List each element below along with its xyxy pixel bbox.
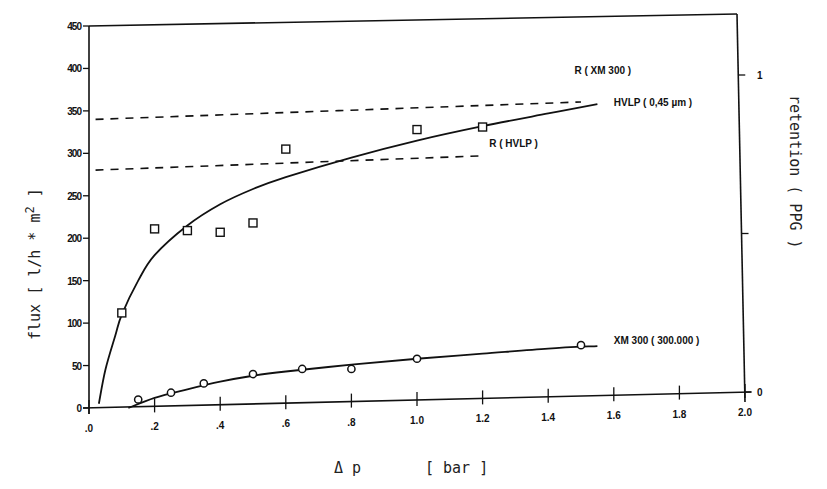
square-marker bbox=[183, 227, 191, 235]
x-tick-label: 1.8 bbox=[672, 409, 686, 420]
x-tick-label: 1.4 bbox=[541, 412, 555, 423]
square-marker bbox=[282, 145, 290, 153]
x-tick-label: 1.6 bbox=[607, 410, 621, 421]
y-tick-label: 350 bbox=[67, 106, 82, 117]
square-marker bbox=[479, 123, 487, 131]
x-tick-label: 2.0 bbox=[738, 407, 752, 418]
series-annotations: R ( XM 300 )HVLP ( 0,45 µm )R ( HVLP )XM… bbox=[489, 65, 699, 346]
x-tick-label: .8 bbox=[347, 417, 356, 428]
retention-line-r-hvlp- bbox=[96, 156, 483, 170]
top-border-line bbox=[89, 14, 737, 26]
x-axis: .0.2.4.6.81.01.21.41.61.82.0 bbox=[85, 384, 753, 434]
y-axis-title-end: ] bbox=[26, 188, 44, 206]
square-marker bbox=[151, 225, 159, 233]
circle-marker bbox=[299, 365, 306, 372]
retention-line-r-xm-300- bbox=[96, 102, 581, 119]
plot-frame bbox=[83, 14, 751, 414]
x-axis-title-symbol: Δ p bbox=[334, 459, 361, 477]
square-marker bbox=[249, 219, 257, 227]
y2-axis-title: retention ( PPG ) bbox=[786, 95, 804, 249]
series-label: R ( HVLP ) bbox=[489, 138, 538, 149]
x-tick-label: .6 bbox=[282, 418, 291, 429]
circle-marker bbox=[348, 365, 355, 372]
x-axis-title-unit: [ bar ] bbox=[425, 459, 488, 477]
y-tick-label: 300 bbox=[67, 148, 82, 159]
x-tick-label: .0 bbox=[85, 423, 94, 434]
y-tick-label: 450 bbox=[67, 21, 82, 32]
series-label: R ( XM 300 ) bbox=[574, 65, 631, 76]
y-tick-label: 0 bbox=[76, 403, 82, 414]
square-marker bbox=[118, 309, 126, 317]
x-tick-label: 1.0 bbox=[410, 415, 424, 426]
y-tick-label: 400 bbox=[67, 63, 82, 74]
flux-curve-xm-300-300-000- bbox=[128, 346, 597, 408]
series-label: XM 300 ( 300.000 ) bbox=[614, 335, 700, 346]
right-axis-line bbox=[737, 14, 745, 402]
y2-tick-label: 1 bbox=[757, 70, 763, 81]
circle-marker bbox=[135, 396, 142, 403]
flux-retention-chart: .0.2.4.6.81.01.21.41.61.82.0 05010015020… bbox=[0, 0, 827, 489]
circle-marker bbox=[413, 355, 420, 362]
series-label: HVLP ( 0,45 µm ) bbox=[614, 97, 692, 108]
x-tick-label: 1.2 bbox=[476, 413, 490, 424]
x-tick-label: .4 bbox=[216, 420, 225, 431]
data-markers bbox=[118, 123, 585, 403]
y-axis-title: flux [ l/h * m2 ] bbox=[23, 188, 44, 340]
circle-marker bbox=[167, 389, 174, 396]
y-tick-label: 100 bbox=[67, 318, 82, 329]
y-axis-title-sup: 2 bbox=[23, 206, 37, 213]
y2-tick-label: 0 bbox=[757, 387, 763, 398]
square-marker bbox=[216, 228, 224, 236]
circle-marker bbox=[577, 342, 584, 349]
y-axis-retention: 01 bbox=[738, 70, 763, 398]
y-tick-label: 200 bbox=[67, 233, 82, 244]
x-tick-label: .2 bbox=[150, 421, 159, 432]
square-marker bbox=[413, 126, 421, 134]
y-axis-flux: 050100150200250300350400450 bbox=[67, 21, 89, 414]
y-tick-label: 150 bbox=[67, 276, 82, 287]
y-axis-title-main: flux [ l/h * m bbox=[26, 214, 44, 340]
y-tick-label: 250 bbox=[67, 191, 82, 202]
circle-marker bbox=[249, 370, 256, 377]
y-tick-label: 50 bbox=[72, 361, 83, 372]
circle-marker bbox=[200, 380, 207, 387]
